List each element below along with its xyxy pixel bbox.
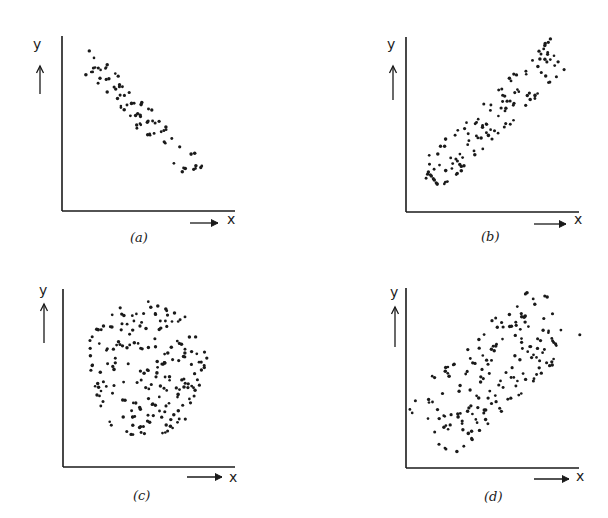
data-point xyxy=(178,388,181,391)
data-point xyxy=(514,321,517,324)
data-point xyxy=(165,128,168,131)
data-point xyxy=(200,165,203,168)
data-point xyxy=(163,353,166,356)
data-point xyxy=(449,423,452,426)
data-point xyxy=(102,324,105,327)
data-point xyxy=(120,328,123,331)
data-point xyxy=(486,363,489,366)
data-point xyxy=(121,415,125,419)
data-point xyxy=(548,81,551,84)
data-point xyxy=(144,386,147,389)
data-point xyxy=(543,58,546,61)
data-point xyxy=(528,98,531,101)
data-point xyxy=(130,102,134,106)
data-point xyxy=(464,373,467,376)
data-point xyxy=(437,417,440,420)
data-point xyxy=(532,297,535,300)
data-point xyxy=(154,375,157,378)
data-point xyxy=(131,314,134,317)
data-point xyxy=(467,132,470,135)
data-point xyxy=(140,321,143,324)
data-point xyxy=(501,94,504,97)
data-point xyxy=(126,104,129,107)
data-point xyxy=(524,104,527,107)
data-point xyxy=(535,356,538,359)
data-point xyxy=(158,396,161,399)
data-point xyxy=(136,381,139,384)
data-point xyxy=(177,409,181,413)
data-point xyxy=(155,360,159,364)
data-point xyxy=(190,363,193,366)
data-point xyxy=(138,426,142,430)
data-point xyxy=(547,41,550,44)
data-point xyxy=(482,377,485,380)
data-point xyxy=(520,392,523,395)
data-point xyxy=(530,356,533,359)
data-point xyxy=(154,312,157,315)
data-point xyxy=(549,58,552,61)
data-point xyxy=(504,107,507,110)
data-point xyxy=(153,132,156,135)
data-point xyxy=(504,371,507,374)
data-point xyxy=(163,140,166,143)
data-point xyxy=(110,424,113,427)
data-point xyxy=(147,300,150,303)
data-point xyxy=(500,321,503,324)
data-point xyxy=(105,349,108,352)
data-point xyxy=(548,364,551,367)
data-point xyxy=(510,79,513,82)
panel-b: y x (b) xyxy=(304,0,608,259)
data-point xyxy=(184,417,187,420)
data-point xyxy=(188,335,191,338)
data-point xyxy=(153,337,156,340)
data-point xyxy=(121,85,124,88)
data-point xyxy=(479,136,483,140)
data-point xyxy=(504,109,507,112)
data-point xyxy=(496,326,499,329)
data-point xyxy=(190,350,193,353)
data-point xyxy=(481,354,484,357)
data-point xyxy=(200,368,203,371)
data-point xyxy=(442,414,445,417)
data-point xyxy=(493,129,496,132)
data-point xyxy=(99,69,102,72)
data-point xyxy=(457,389,460,392)
data-point xyxy=(429,173,432,176)
data-point xyxy=(536,65,539,68)
data-point xyxy=(455,172,458,175)
data-point xyxy=(162,363,165,366)
data-point xyxy=(168,375,171,378)
data-point xyxy=(168,402,171,405)
data-point xyxy=(509,397,512,400)
data-point xyxy=(520,341,523,344)
data-point xyxy=(140,431,143,434)
data-point xyxy=(524,378,527,381)
data-point xyxy=(454,157,457,160)
data-point xyxy=(538,57,542,61)
data-point xyxy=(516,380,519,383)
data-point xyxy=(142,372,146,376)
data-point xyxy=(184,382,187,385)
data-point xyxy=(120,105,123,108)
data-point xyxy=(177,320,180,323)
data-point xyxy=(135,313,138,316)
data-point xyxy=(154,345,157,348)
data-point xyxy=(156,304,160,308)
data-point xyxy=(119,94,122,97)
data-point xyxy=(105,90,108,93)
data-point xyxy=(159,319,162,322)
data-point xyxy=(475,134,478,137)
scatter-plot-a xyxy=(0,0,304,259)
data-point xyxy=(469,404,472,407)
data-point xyxy=(485,131,488,134)
data-point xyxy=(478,429,481,432)
data-point xyxy=(504,122,507,125)
data-point xyxy=(169,418,172,421)
data-point xyxy=(513,91,516,94)
data-point xyxy=(513,354,516,357)
data-point xyxy=(487,134,491,138)
data-point xyxy=(543,42,546,45)
data-point xyxy=(106,362,109,365)
data-point xyxy=(544,74,547,77)
data-point xyxy=(147,397,150,400)
